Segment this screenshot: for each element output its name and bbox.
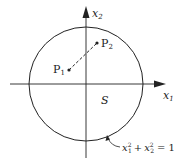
- p2-label: P2: [101, 37, 113, 51]
- point-p2: [95, 41, 98, 44]
- x2-axis-arrow-icon: [83, 6, 90, 18]
- point-p1: [67, 68, 70, 71]
- x2-axis-label: x2: [92, 7, 103, 21]
- p1-label: P1: [53, 63, 65, 77]
- x1-axis-label: x1: [163, 89, 174, 103]
- x1-axis-arrow-icon: [154, 81, 166, 88]
- p1-p2-segment: [69, 43, 97, 70]
- unit-circle-diagram: x2 x1 P1 P2 S x21+x22= 1: [0, 0, 188, 164]
- region-label: S: [101, 94, 109, 107]
- circle-equation: x21+x22= 1: [122, 141, 175, 154]
